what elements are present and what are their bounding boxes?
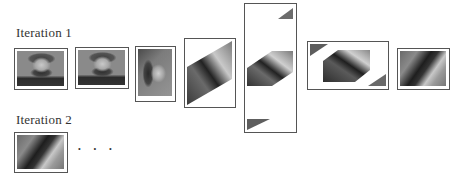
step-sheared-horizontal-frame	[307, 41, 389, 90]
portrait-image-copy	[78, 50, 125, 85]
iteration-2-input-frame	[14, 132, 68, 173]
cropped-result-image	[400, 51, 446, 86]
continuation-ellipsis: · · ·	[77, 140, 116, 158]
wrapped-sheared-image	[245, 4, 295, 131]
step-cropped-result-frame	[397, 48, 450, 90]
step-copy-frame	[75, 47, 129, 89]
sheared-image	[185, 39, 234, 106]
portrait-image	[17, 51, 64, 86]
iteration-2-label: Iteration 2	[16, 112, 72, 128]
iteration-1-label: Iteration 1	[16, 25, 72, 41]
rotated-portrait-image	[138, 49, 172, 96]
iteration-2-input-image	[17, 135, 64, 169]
step-sheared-vertical-frame	[184, 38, 236, 108]
step-wrapped-vertical-frame	[244, 3, 297, 133]
step-rotated-frame	[135, 46, 176, 102]
horizontal-sheared-image	[308, 42, 387, 88]
step-original-frame	[14, 48, 68, 90]
